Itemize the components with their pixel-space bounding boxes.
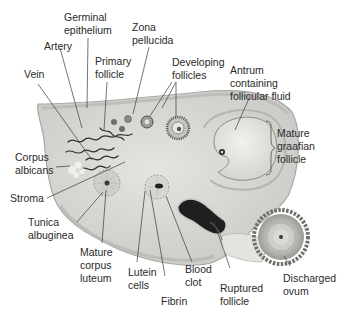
- label-artery: Artery: [44, 40, 72, 53]
- label-ruptured-follicle: Ruptured follicle: [220, 282, 263, 308]
- label-developing-follicles: Developing follicles: [172, 56, 225, 82]
- ovary-diagram: Germinal epithelium Artery Zona pellucid…: [0, 0, 347, 315]
- label-antrum: Antrum containing follicular fluid: [230, 64, 291, 103]
- label-vein: Vein: [24, 68, 44, 81]
- label-corpus-albicans: Corpus albicans: [15, 151, 54, 177]
- corpus-luteum: [94, 170, 120, 196]
- label-stroma: Stroma: [10, 192, 44, 205]
- label-germinal-epithelium: Germinal epithelium: [64, 11, 112, 37]
- label-zona-pellucida: Zona pellucida: [132, 21, 173, 47]
- label-blood-clot: Blood clot: [185, 263, 212, 289]
- corpus-hemorrhagicum: [145, 175, 169, 199]
- label-fibrin: Fibrin: [161, 295, 187, 308]
- label-mature-corpus-luteum: Mature corpus luteum: [80, 246, 113, 285]
- label-primary-follicle: Primary follicle: [95, 55, 131, 81]
- label-mature-graafian-follicle: Mature graafian follicle: [277, 127, 315, 166]
- label-lutein-cells: Lutein cells: [128, 266, 157, 292]
- label-tunica-albuginea: Tunica albuginea: [28, 216, 74, 242]
- label-discharged-ovum: Discharged ovum: [283, 272, 336, 298]
